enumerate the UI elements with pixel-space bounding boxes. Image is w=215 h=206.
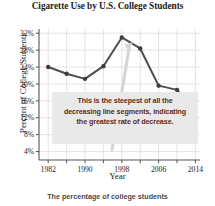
svg-text:28%: 28% [20,46,35,55]
svg-text:8%: 8% [24,130,35,139]
svg-text:32%: 32% [20,29,35,38]
callout-line-2: decreasing line segments, indicating [52,107,198,118]
y-tick-labels: 4%8%12%16%20%24%28%32% [20,29,35,156]
steepest-segment-callout: This is the steepest of all the decreasi… [52,92,198,144]
x-tick-labels: 19821990199820062014 [41,165,204,174]
svg-text:2014: 2014 [188,165,203,174]
svg-text:24%: 24% [20,63,35,72]
figure-caption: The percentage of college students [0,192,215,201]
svg-text:2006: 2006 [151,165,166,174]
svg-text:16%: 16% [20,97,35,106]
callout-line-3: the greatest rate of decrease. [52,117,198,128]
svg-text:20%: 20% [20,80,35,89]
svg-text:1998: 1998 [114,165,129,174]
svg-text:12%: 12% [20,113,35,122]
svg-text:1990: 1990 [77,165,92,174]
svg-text:4%: 4% [24,147,35,156]
svg-text:1982: 1982 [41,165,56,174]
callout-line-1: This is the steepest of all the [52,96,198,107]
chart-figure: Cigarette Use by U.S. College Students P… [0,0,215,206]
